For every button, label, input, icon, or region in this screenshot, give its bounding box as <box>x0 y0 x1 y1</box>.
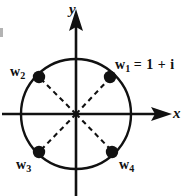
x-axis-label: x <box>173 106 181 121</box>
point-label-w1: w1 = 1 + i <box>115 58 175 74</box>
point-label-w3-base: w <box>16 157 26 172</box>
radius-line-w4 <box>76 114 112 151</box>
point-label-w2: w2 <box>10 65 25 81</box>
point-label-w1-subscript: 1 <box>125 63 130 74</box>
point-label-w4-base: w <box>119 157 129 172</box>
point-w4 <box>106 146 118 158</box>
radius-line-w2 <box>40 78 76 114</box>
x-axis <box>2 107 172 121</box>
scan-artifact <box>0 28 3 37</box>
radius-line-w1 <box>76 78 110 114</box>
point-label-w3-subscript: 3 <box>26 163 31 174</box>
point-label-w3: w3 <box>16 158 31 174</box>
point-w2 <box>33 71 45 83</box>
point-label-w2-base: w <box>10 64 20 79</box>
point-w3 <box>33 146 45 158</box>
point-label-w2-subscript: 2 <box>20 70 25 81</box>
complex-plane-figure: y x w1 = 1 + i w2 w3 w4 <box>0 0 187 196</box>
point-label-w1-base: w <box>115 57 125 72</box>
y-axis-label: y <box>69 2 76 17</box>
point-label-w4: w4 <box>119 158 134 174</box>
point-label-w4-subscript: 4 <box>129 163 134 174</box>
point-label-w1-equation: = 1 + i <box>134 57 175 72</box>
radius-line-w3 <box>40 114 76 151</box>
